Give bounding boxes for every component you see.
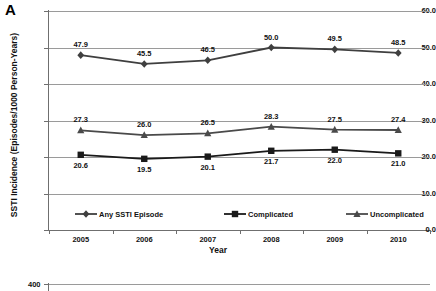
data-point-label: 45.5 [124, 49, 164, 58]
x-axis-title: Year [0, 245, 436, 255]
y-axis-title: SSTI Incidence (Episodes/1000 Person-Yea… [9, 15, 19, 235]
legend-label: Complicated [248, 210, 293, 219]
data-point-marker [204, 129, 211, 136]
data-point-label: 20.1 [188, 163, 228, 172]
gridline [49, 48, 430, 49]
panel-b-gridline [49, 284, 430, 285]
data-point-marker [141, 60, 148, 68]
x-tick-label: 2010 [373, 235, 423, 244]
data-point-label: 21.7 [251, 157, 291, 166]
x-tick-mark [430, 230, 431, 234]
data-point-label: 26.0 [124, 120, 164, 129]
data-point-marker [332, 147, 338, 153]
panel-b-ytick-label: 400 [28, 280, 41, 289]
data-point-marker [395, 126, 402, 133]
data-point-label: 46.5 [188, 45, 228, 54]
data-point-label: 47.9 [61, 40, 101, 49]
x-tick-label: 2009 [310, 235, 360, 244]
gridline [49, 84, 430, 85]
data-point-marker [268, 123, 275, 130]
legend-label: Any SSTI Episode [99, 210, 163, 219]
data-point-label: 26.5 [188, 118, 228, 127]
figure-container: A SSTI Incidence (Episodes/1000 Person-Y… [0, 0, 436, 291]
data-point-marker [204, 56, 211, 64]
data-point-label: 27.4 [378, 115, 418, 124]
data-point-marker [268, 148, 274, 154]
data-point-marker [77, 51, 84, 59]
data-point-label: 22.0 [315, 156, 355, 165]
legend-label: Uncomplicated [370, 210, 424, 219]
data-point-label: 28.3 [251, 112, 291, 121]
gridline [49, 121, 430, 122]
legend-marker-square-icon [224, 208, 246, 220]
x-tick-mark [240, 230, 241, 234]
data-point-label: 50.0 [251, 33, 291, 42]
data-point-label: 48.5 [378, 38, 418, 47]
legend-marker-diamond-icon [75, 208, 97, 220]
panel-b-axis-line [48, 283, 49, 291]
data-point-label: 19.5 [124, 165, 164, 174]
x-tick-label: 2007 [183, 235, 233, 244]
legend-marker-triangle-icon [346, 208, 368, 220]
data-point-marker [232, 211, 238, 217]
panel-b-container: B [0, 258, 436, 291]
gridline [49, 157, 430, 158]
legend-item-complicated[interactable]: Complicated [224, 206, 293, 222]
data-point-label: 20.6 [61, 161, 101, 170]
x-tick-label: 2006 [119, 235, 169, 244]
data-point-marker [77, 127, 84, 134]
data-point-label: 21.0 [378, 159, 418, 168]
x-tick-label: 2005 [56, 235, 106, 244]
x-tick-label: 2008 [246, 235, 296, 244]
x-tick-mark [367, 230, 368, 234]
data-point-label: 27.5 [315, 115, 355, 124]
data-point-label: 49.5 [315, 34, 355, 43]
legend-item-any-ssti-episode[interactable]: Any SSTI Episode [75, 206, 163, 222]
legend-item-uncomplicated[interactable]: Uncomplicated [346, 206, 424, 222]
data-point-label: 27.3 [61, 115, 101, 124]
data-point-marker [83, 210, 90, 218]
gridline [49, 11, 430, 12]
chart-legend: Any SSTI EpisodeComplicatedUncomplicated [49, 206, 430, 224]
x-tick-mark [49, 230, 50, 234]
x-tick-mark [113, 230, 114, 234]
data-point-marker [331, 126, 338, 133]
x-tick-mark [176, 230, 177, 234]
x-tick-mark [303, 230, 304, 234]
gridline [49, 194, 430, 195]
data-point-marker [141, 131, 148, 138]
